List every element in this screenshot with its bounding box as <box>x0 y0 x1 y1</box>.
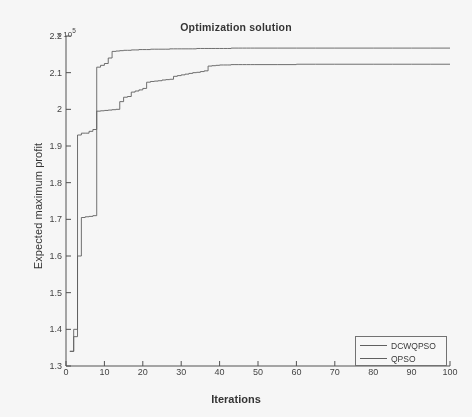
series-line-qpso <box>70 64 450 351</box>
data-series-group <box>70 48 450 351</box>
legend[interactable]: DCWQPSO QPSO <box>355 336 447 366</box>
legend-label-qpso: QPSO <box>391 354 416 364</box>
y-tick-marks <box>66 36 71 366</box>
series-line-dcwqpso <box>70 48 450 351</box>
legend-label-dcwqpso: DCWQPSO <box>391 341 436 351</box>
axis-frame <box>66 36 450 366</box>
legend-swatch-qpso <box>360 358 387 359</box>
legend-swatch-dcwqpso <box>360 345 387 346</box>
chart-figure: Optimization solution x 105 Expected max… <box>0 0 472 417</box>
legend-item-qpso[interactable]: QPSO <box>356 352 448 365</box>
legend-item-dcwqpso[interactable]: DCWQPSO <box>356 339 448 352</box>
